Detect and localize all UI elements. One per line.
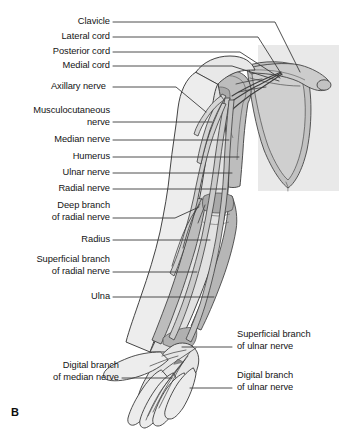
label-line: Deep branch	[52, 200, 110, 212]
label-lateral-cord: Lateral cord	[62, 31, 111, 42]
label-medial-cord: Medial cord	[62, 60, 110, 71]
label-deep-branch-radial-nerve: Deep branch of radial nerve	[52, 200, 110, 223]
label-line: Ulnar nerve	[62, 167, 110, 178]
label-line: Posterior cord	[53, 46, 110, 57]
label-radial-nerve: Radial nerve	[58, 183, 110, 194]
label-ulnar-nerve: Ulnar nerve	[62, 167, 110, 178]
label-line: Superficial branch	[36, 254, 110, 266]
hand	[104, 343, 199, 428]
label-line: Superficial branch	[237, 329, 311, 341]
label-digital-branch-median-nerve: Digital branch of median nerve	[53, 360, 119, 383]
label-median-nerve: Median nerve	[54, 134, 110, 145]
label-line: Radius	[81, 234, 110, 245]
label-humerus: Humerus	[73, 151, 110, 162]
label-clavicle: Clavicle	[78, 16, 110, 27]
label-line: Axillary nerve	[51, 81, 106, 92]
label-line: of median nerve	[53, 372, 119, 384]
label-axillary-nerve: Axillary nerve	[51, 81, 106, 92]
label-superficial-branch-ulnar-nerve: Superficial branch of ulnar nerve	[237, 329, 311, 352]
label-line: of ulnar nerve	[237, 341, 311, 353]
label-line: Digital branch	[237, 370, 293, 382]
label-line: Humerus	[73, 151, 110, 162]
label-line: Ulna	[91, 291, 110, 302]
label-line: of ulnar nerve	[237, 382, 293, 394]
panel-letter: B	[11, 406, 19, 418]
label-digital-branch-ulnar-nerve: Digital branch of ulnar nerve	[237, 370, 293, 393]
label-radius: Radius	[81, 234, 110, 245]
label-line: of radial nerve	[52, 212, 110, 224]
label-line: Musculocutaneous	[33, 105, 110, 117]
label-line: nerve	[33, 117, 110, 129]
label-posterior-cord: Posterior cord	[53, 46, 110, 57]
label-line: Clavicle	[78, 16, 110, 27]
label-line: Medial cord	[62, 60, 110, 71]
label-line: Digital branch	[53, 360, 119, 372]
label-line: Radial nerve	[58, 183, 110, 194]
label-line: Median nerve	[54, 134, 110, 145]
label-line: Lateral cord	[62, 31, 111, 42]
label-line: of radial nerve	[36, 266, 110, 278]
label-superficial-branch-radial-nerve: Superficial branch of radial nerve	[36, 254, 110, 277]
label-musculocutaneous-nerve: Musculocutaneous nerve	[33, 105, 110, 128]
label-ulna: Ulna	[91, 291, 110, 302]
